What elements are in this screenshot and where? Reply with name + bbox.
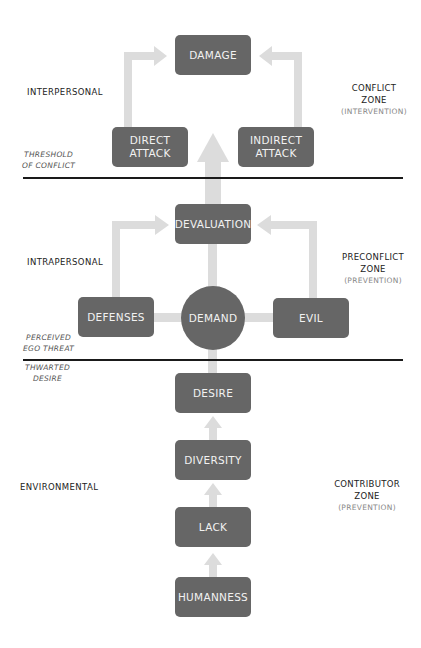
level-environmental: ENVIRONMENTAL (20, 482, 98, 492)
arrow-devaluation-to-attack (197, 133, 229, 204)
node-devaluation-label: DEVALUATION (175, 218, 252, 231)
thwarted-desire-label: THWARTED DESIRE (25, 362, 70, 384)
node-devaluation: DEVALUATION (175, 204, 251, 244)
connector-demand-desire (208, 349, 217, 373)
node-desire: DESIRE (175, 373, 251, 413)
zone-contributor: CONTRIBUTOR ZONE (PREVENTION) (327, 478, 407, 514)
zone-preconflict-title: PRECONFLICT (333, 251, 413, 263)
zone-conflict-zone: ZONE (334, 94, 414, 106)
zone-conflict: CONFLICT ZONE (INTERVENTION) (334, 82, 414, 118)
arrow-diversity-to-desire (204, 416, 222, 440)
node-evil-label: EVIL (299, 312, 323, 325)
zone-preconflict: PRECONFLICT ZONE (PREVENTION) (333, 251, 413, 287)
node-desire-label: DESIRE (193, 387, 233, 400)
arrow-defenses-to-devaluation (112, 215, 169, 297)
zone-conflict-title: CONFLICT (334, 82, 414, 94)
zone-contributor-zone: ZONE (327, 490, 407, 502)
zone-preconflict-purpose: (PREVENTION) (333, 275, 413, 287)
threshold-of-conflict-line (23, 177, 403, 179)
level-intrapersonal: INTRAPERSONAL (27, 257, 103, 267)
arrow-humanness-to-lack (204, 553, 222, 577)
threshold-of-conflict-label: THRESHOLD OF CONFLICT (22, 149, 75, 171)
zone-contributor-title: CONTRIBUTOR (327, 478, 407, 490)
zone-preconflict-zone: ZONE (333, 263, 413, 275)
node-indirect-attack-line1: INDIRECT (250, 134, 302, 147)
node-damage-label: DAMAGE (189, 49, 237, 62)
node-direct-attack-line1: DIRECT (130, 134, 171, 147)
arrow-indirect-attack-to-damage (259, 46, 302, 127)
perceived-ego-threat-label: PERCEIVED EGO THREAT (23, 332, 74, 354)
node-diversity-label: DIVERSITY (184, 454, 242, 467)
node-defenses-label: DEFENSES (87, 311, 145, 324)
threshold-line1: THRESHOLD (22, 149, 75, 160)
zone-contributor-purpose: (PREVENTION) (327, 502, 407, 514)
arrow-lack-to-diversity (204, 483, 222, 507)
node-lack-label: LACK (199, 521, 228, 534)
node-damage: DAMAGE (175, 35, 251, 75)
zone-conflict-purpose: (INTERVENTION) (334, 106, 414, 118)
node-diversity: DIVERSITY (175, 440, 251, 480)
node-lack: LACK (175, 507, 251, 547)
node-evil: EVIL (273, 298, 349, 338)
ego-threat-line (23, 359, 403, 361)
perceived-line2: EGO THREAT (23, 343, 74, 354)
arrow-evil-to-devaluation (257, 215, 317, 298)
node-direct-attack: DIRECT ATTACK (112, 127, 188, 167)
node-humanness: HUMANNESS (175, 577, 251, 617)
thwarted-line1: THWARTED (25, 362, 70, 373)
node-direct-attack-line2: ATTACK (129, 147, 170, 160)
node-humanness-label: HUMANNESS (178, 591, 248, 604)
level-interpersonal: INTERPERSONAL (27, 87, 103, 97)
perceived-line1: PERCEIVED (23, 332, 74, 343)
arrow-direct-attack-to-damage (124, 46, 167, 127)
node-defenses: DEFENSES (78, 297, 154, 337)
conflict-diagram: DAMAGE DIRECT ATTACK INDIRECT ATTACK DEV… (0, 0, 421, 648)
node-demand: DEMAND (181, 286, 245, 350)
connector-devaluation-demand (208, 243, 217, 287)
thwarted-line2: DESIRE (25, 373, 70, 384)
node-demand-label: DEMAND (189, 312, 238, 325)
node-indirect-attack: INDIRECT ATTACK (238, 127, 314, 167)
threshold-line2: OF CONFLICT (22, 160, 75, 171)
node-indirect-attack-line2: ATTACK (255, 147, 296, 160)
